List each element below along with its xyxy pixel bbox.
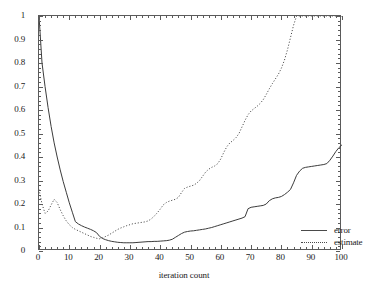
x-tick (184, 247, 185, 249)
y-tick-label: 0.8 (0, 58, 25, 67)
y-tick (39, 21, 41, 22)
y-tick (39, 35, 41, 36)
y-tick (39, 209, 41, 210)
y-tick-label: 0.4 (0, 152, 25, 161)
x-tick-top (294, 16, 295, 18)
x-tick-top (112, 16, 113, 18)
y-tick (39, 204, 43, 205)
y-tick-right (338, 218, 340, 219)
x-tick (251, 245, 252, 249)
y-tick-right (338, 129, 340, 130)
x-tick-top (197, 16, 198, 18)
x-tick-top (203, 16, 204, 18)
x-tick (112, 247, 113, 249)
x-tick-top (233, 16, 234, 18)
x-tick-top (81, 16, 82, 18)
y-tick (39, 119, 41, 120)
x-tick (197, 247, 198, 249)
y-tick-right (338, 143, 340, 144)
x-tick-top (57, 16, 58, 18)
x-tick-top (312, 16, 313, 20)
x-tick-top (281, 16, 282, 20)
y-tick-right (338, 82, 340, 83)
y-tick (39, 96, 41, 97)
y-tick (39, 157, 43, 158)
x-tick-top (63, 16, 64, 18)
x-tick (294, 247, 295, 249)
y-tick-right (338, 176, 340, 177)
y-tick-right (338, 152, 340, 153)
x-tick (69, 245, 70, 249)
y-tick (39, 190, 41, 191)
y-tick (39, 181, 43, 182)
y-tick (39, 58, 41, 59)
x-tick-top (251, 16, 252, 20)
y-tick (39, 199, 41, 200)
y-tick-right (338, 68, 340, 69)
y-tick-right (336, 63, 340, 64)
x-tick-top (106, 16, 107, 18)
x-tick-top (75, 16, 76, 18)
y-tick (39, 77, 41, 78)
y-tick-right (338, 171, 340, 172)
x-tick-top (239, 16, 240, 18)
y-tick-right (338, 54, 340, 55)
x-tick (166, 247, 167, 249)
y-tick-right (338, 119, 340, 120)
x-tick-top (306, 16, 307, 18)
y-tick-right (338, 44, 340, 45)
y-tick-right (338, 30, 340, 31)
y-tick (39, 124, 41, 125)
chart-curves (39, 16, 342, 251)
x-tick-top (69, 16, 70, 20)
y-tick (39, 171, 41, 172)
x-tick (118, 247, 119, 249)
x-tick-top (263, 16, 264, 18)
x-tick-top (51, 16, 52, 18)
x-tick-top (166, 16, 167, 18)
x-tick-top (39, 16, 40, 20)
y-tick (39, 63, 43, 64)
y-tick (39, 152, 41, 153)
x-tick (39, 245, 40, 249)
x-tick-top (87, 16, 88, 18)
x-tick-top (45, 16, 46, 18)
y-tick-right (338, 190, 340, 191)
x-tick-top (215, 16, 216, 18)
x-tick (51, 247, 52, 249)
y-tick (39, 228, 43, 229)
y-tick-right (338, 124, 340, 125)
y-tick (39, 72, 41, 73)
y-tick (39, 143, 41, 144)
x-tick (130, 245, 131, 249)
x-tick (148, 247, 149, 249)
y-tick-label: 0.5 (0, 128, 25, 137)
y-tick (39, 110, 43, 111)
x-tick (87, 247, 88, 249)
x-tick-top (269, 16, 270, 18)
x-tick-top (257, 16, 258, 18)
x-tick (287, 247, 288, 249)
y-tick-right (338, 213, 340, 214)
x-tick (221, 245, 222, 249)
y-tick-label: 0.7 (0, 81, 25, 90)
y-tick-right (338, 101, 340, 102)
x-tick-top (172, 16, 173, 18)
y-tick (39, 68, 41, 69)
y-tick (39, 87, 43, 88)
y-tick (39, 105, 41, 106)
y-tick-right (338, 195, 340, 196)
x-tick (160, 245, 161, 249)
x-tick (63, 247, 64, 249)
y-tick-right (338, 115, 340, 116)
series-line-estimate (39, 16, 342, 239)
x-tick-top (209, 16, 210, 18)
legend-line-solid-icon (301, 226, 327, 235)
y-tick (39, 242, 41, 243)
x-tick (275, 247, 276, 249)
x-tick (191, 245, 192, 249)
y-tick (39, 232, 41, 233)
y-tick-right (338, 21, 340, 22)
x-tick-top (336, 16, 337, 18)
x-tick (142, 247, 143, 249)
